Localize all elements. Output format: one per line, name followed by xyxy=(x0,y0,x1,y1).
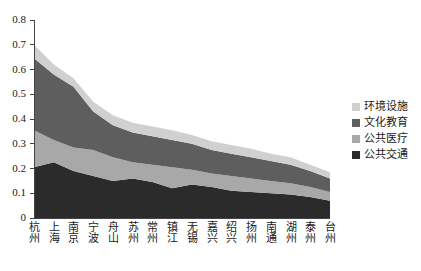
y-tick-label: 0.1 xyxy=(0,187,26,198)
stacked-area-chart: 00.10.20.30.40.50.60.70.8 杭州上海南京宁波舟山苏州常州… xyxy=(0,0,421,271)
x-tick-label-镇江: 镇江 xyxy=(166,221,177,243)
x-tick-label-绍兴: 绍兴 xyxy=(225,221,236,243)
x-tick-label-常州: 常州 xyxy=(146,221,157,243)
y-tick-label: 0.2 xyxy=(0,163,26,174)
x-tick-label-杭州: 杭州 xyxy=(28,221,39,243)
y-tick-label: 0 xyxy=(0,212,26,223)
y-tick-label: 0.3 xyxy=(0,138,26,149)
legend-item-公共交通[interactable]: 公共交通 xyxy=(352,147,421,162)
x-tick-label-扬州: 扬州 xyxy=(245,221,256,243)
legend-item-环境设施[interactable]: 环境设施 xyxy=(352,99,421,114)
x-tick-label-南通: 南通 xyxy=(265,221,276,243)
y-tick-label: 0.5 xyxy=(0,88,26,99)
legend-swatch-icon xyxy=(352,135,360,143)
x-tick-label-湖州: 湖州 xyxy=(285,221,296,243)
x-tick-label-苏州: 苏州 xyxy=(127,221,138,243)
legend-label: 公共交通 xyxy=(364,149,408,160)
x-tick-label-舟山: 舟山 xyxy=(107,221,118,243)
x-tick-label-嘉兴: 嘉兴 xyxy=(206,221,217,243)
x-tick-label-台州: 台州 xyxy=(324,221,335,243)
legend-label: 公共医疗 xyxy=(364,133,408,144)
legend-label: 环境设施 xyxy=(364,101,408,112)
x-tick-label-宁波: 宁波 xyxy=(87,221,98,243)
legend-item-文化教育[interactable]: 文化教育 xyxy=(352,115,421,130)
legend-item-公共医疗[interactable]: 公共医疗 xyxy=(352,131,421,146)
y-tick-label: 0.7 xyxy=(0,39,26,50)
x-tick-label-泰州: 泰州 xyxy=(304,221,315,243)
legend-swatch-icon xyxy=(352,103,360,111)
x-tick-label-无锡: 无锡 xyxy=(186,221,197,243)
y-tick-label: 0.6 xyxy=(0,64,26,75)
legend-swatch-icon xyxy=(352,119,360,127)
y-tick-label: 0.8 xyxy=(0,14,26,25)
y-tick-label: 0.4 xyxy=(0,113,26,124)
chart-legend: 环境设施文化教育公共医疗公共交通 xyxy=(352,99,421,163)
legend-label: 文化教育 xyxy=(364,117,408,128)
x-tick-label-上海: 上海 xyxy=(48,221,59,243)
legend-swatch-icon xyxy=(352,151,360,159)
x-tick-label-南京: 南京 xyxy=(67,221,78,243)
